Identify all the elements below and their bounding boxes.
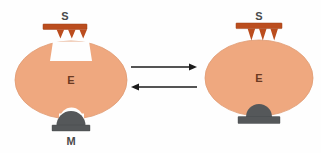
right-substrate-label: S — [255, 10, 262, 22]
right-enzyme-label: E — [255, 72, 262, 84]
enzyme-binding-figure: S E M — [0, 0, 321, 153]
left-active-site-notch — [50, 42, 92, 61]
left-modulator-base — [52, 125, 90, 131]
forward-arrow — [131, 63, 197, 70]
left-modulator-label: M — [66, 135, 75, 147]
left-substrate-bar — [43, 24, 87, 29]
left-substrate-label: S — [61, 10, 68, 22]
forward-arrow-head — [189, 63, 197, 70]
left-substrate-teeth — [46, 29, 87, 38]
reverse-arrow — [131, 83, 197, 90]
right-substrate-bar — [236, 23, 282, 29]
right-complex-bound: S E — [205, 10, 313, 124]
left-substrate-shape — [43, 24, 87, 38]
left-enzyme-label: E — [67, 74, 74, 86]
reverse-arrow-head — [131, 83, 139, 90]
figure-canvas: S E M — [0, 0, 321, 153]
right-substrate-shape — [236, 23, 282, 41]
right-modulator-base — [238, 117, 280, 124]
left-complex-unbound: S E M — [15, 10, 127, 147]
right-substrate-teeth — [240, 29, 278, 41]
equilibrium-arrows — [131, 63, 197, 90]
